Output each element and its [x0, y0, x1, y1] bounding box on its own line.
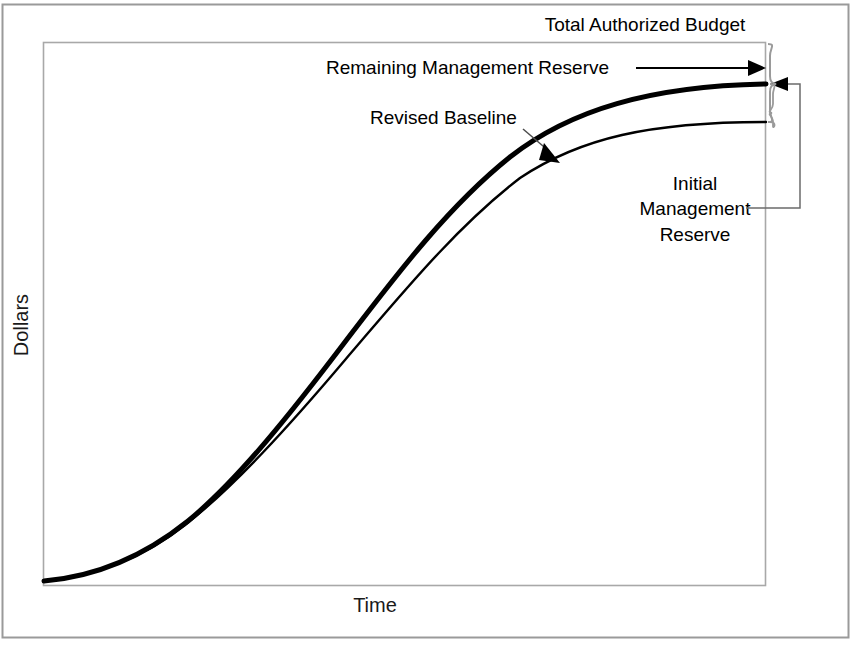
outer-frame	[3, 5, 849, 638]
original-baseline-curve	[44, 122, 766, 581]
revised-baseline-label: Revised Baseline	[370, 107, 517, 128]
total-authorized-budget-label: Total Authorized Budget	[545, 14, 746, 35]
revised-baseline-curve	[44, 84, 766, 581]
budget-curve-diagram: Dollars Time Total Authorized Budget Rem…	[0, 0, 854, 649]
remaining-management-reserve-label: Remaining Management Reserve	[326, 57, 609, 78]
remaining-reserve-arrowhead-icon	[748, 60, 766, 76]
x-axis-label: Time	[353, 594, 397, 616]
total-authorized-budget-brace	[768, 44, 776, 122]
figure-container: Dollars Time Total Authorized Budget Rem…	[0, 0, 854, 649]
initial-management-reserve-label-line3: Reserve	[660, 224, 731, 245]
initial-management-reserve-label-line2: Management	[640, 198, 752, 219]
y-axis-label: Dollars	[10, 294, 32, 356]
initial-management-reserve-label-line1: Initial	[673, 173, 717, 194]
